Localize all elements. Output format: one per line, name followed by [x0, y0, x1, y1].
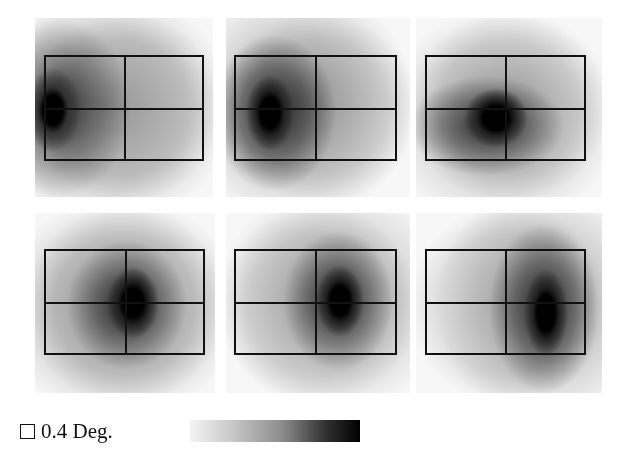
divider-horizontal: [427, 302, 584, 304]
heatmap-panel-3: [416, 18, 602, 197]
heatmap-panel-6: [416, 213, 602, 393]
frame-6: [425, 249, 586, 355]
divider-horizontal: [427, 108, 584, 110]
legend: 0.4 Deg.: [20, 416, 113, 446]
scale-square-icon: [20, 424, 35, 439]
colorbar: [190, 420, 360, 442]
divider-horizontal: [46, 108, 202, 110]
heatmap-panel-2: [226, 18, 410, 197]
frame-4: [44, 249, 205, 355]
divider-horizontal: [236, 302, 395, 304]
heatmap-panel-5: [226, 213, 410, 393]
frame-3: [425, 55, 586, 161]
frame-5: [234, 249, 397, 355]
heatmap-panel-1: [35, 18, 213, 197]
divider-horizontal: [46, 302, 203, 304]
heatmap-panel-4: [35, 213, 215, 393]
divider-horizontal: [236, 108, 395, 110]
scale-label: 0.4 Deg.: [41, 421, 113, 442]
frame-1: [44, 55, 204, 161]
frame-2: [234, 55, 397, 161]
